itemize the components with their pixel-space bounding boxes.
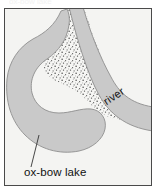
- ox-bow-lake-label: ox-bow lake: [24, 166, 86, 178]
- lake-pointer-line: [31, 135, 39, 167]
- ox-bow-lake-figure: ox-bow lake: [0, 0, 159, 193]
- annotation-layer: [5, 9, 151, 185]
- diagram-frame: river: [4, 8, 152, 186]
- top-clipped-caption: ox-bow lake: [9, 0, 149, 6]
